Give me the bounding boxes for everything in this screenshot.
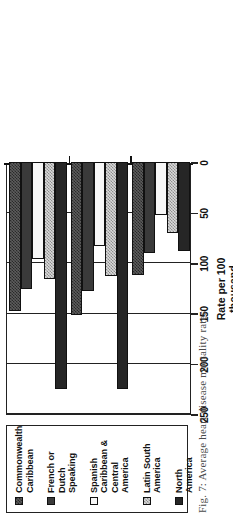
legend-item-label: Commonwealth Caribbean (14, 426, 35, 493)
bar (105, 162, 117, 276)
legend-item-label: French or Dutch Speaking (46, 432, 78, 493)
solid-dark-swatch-icon (47, 497, 55, 505)
white-swatch-icon (90, 497, 98, 505)
legend-item-label: Latin South America (142, 432, 163, 493)
bar (178, 162, 190, 251)
bar (44, 162, 56, 279)
bar (167, 162, 179, 233)
bar (9, 162, 21, 311)
legend-item-label: North America (174, 432, 195, 493)
solid-black-swatch-icon (175, 497, 183, 505)
gridline (7, 413, 190, 414)
bar (71, 162, 83, 315)
bar (55, 162, 67, 389)
bar (117, 162, 129, 389)
gridline (7, 313, 190, 314)
legend-item-north-america: North America (174, 432, 195, 505)
category-separator (69, 156, 71, 165)
dark-checker-swatch-icon (15, 497, 23, 505)
bar (94, 162, 106, 246)
gridline (7, 363, 190, 364)
plot-area (6, 163, 191, 415)
bar (144, 162, 156, 253)
legend-item-latin-south-america: Latin South America (142, 432, 163, 505)
light-checker-swatch-icon (143, 497, 151, 505)
legend-item-label: Spanish Caribbean & Central America (89, 432, 131, 493)
bar (132, 162, 144, 275)
bar (155, 162, 167, 215)
axis-title-line-2: thousand (227, 163, 233, 415)
bar (21, 162, 33, 289)
legend-item-french-or-dutch-speaking: French or Dutch Speaking (46, 432, 78, 505)
bar (82, 162, 94, 291)
legend-item-commonwealth-caribbean: Commonwealth Caribbean (14, 432, 35, 505)
figure-container: Commonwealth Caribbean French or Dutch S… (0, 0, 233, 519)
gridline (7, 262, 190, 263)
legend-item-spanish-caribbean-central-america: Spanish Caribbean & Central America (89, 432, 131, 505)
category-separator (130, 156, 132, 165)
figure-caption: Fig. 7: Average heart disease mortality … (196, 93, 208, 513)
bar-chart: 250200150100500 Rate per 100 thousand (6, 163, 191, 415)
chart-legend: Commonwealth Caribbean French or Dutch S… (6, 425, 188, 513)
bar (32, 162, 44, 259)
axis-title: Rate per 100 thousand (215, 85, 233, 415)
axis-title-line-1: Rate per 100 (215, 163, 227, 415)
